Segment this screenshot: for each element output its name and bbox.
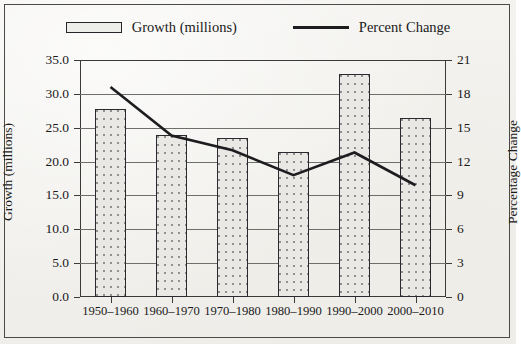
- y-axis-tick-label-right: 0: [457, 290, 464, 304]
- y-axis-tick-right: [446, 195, 452, 196]
- gridline: [80, 94, 446, 95]
- chart-legend: Growth (millions) Percent Change: [0, 14, 516, 40]
- y-axis-tick-right: [446, 297, 452, 298]
- y-axis-tick-left: [74, 94, 80, 95]
- y-axis-tick-label-right: 15: [457, 121, 471, 135]
- x-axis-tick-label: 1970–1980: [204, 305, 261, 318]
- x-axis-tick-label: 1960–1970: [143, 305, 200, 318]
- y-axis-tick-label-left: 20.0: [45, 155, 69, 169]
- gridline: [80, 229, 446, 230]
- y-axis-tick-label-right: 9: [457, 188, 464, 202]
- x-axis-tick: [172, 297, 173, 303]
- legend-item-growth[interactable]: Growth (millions): [66, 20, 237, 35]
- y-axis-tick-label-right: 3: [457, 256, 464, 270]
- x-axis-tick-label: 1950–1960: [82, 305, 139, 318]
- x-axis-tick: [416, 297, 417, 303]
- bar: [339, 74, 370, 297]
- y-axis-tick-label-left: 0.0: [52, 290, 69, 304]
- y-axis-title-left: Growth (millions): [0, 123, 16, 221]
- x-axis-tick: [355, 297, 356, 303]
- y-axis-tick-left: [74, 162, 80, 163]
- y-axis-tick-label-right: 21: [457, 53, 471, 67]
- y-axis-tick-label-left: 30.0: [45, 87, 69, 101]
- y-axis-tick-right: [446, 128, 452, 129]
- line-swatch-icon: [293, 26, 349, 29]
- x-axis-tick-label: 1980–1990: [265, 305, 322, 318]
- y-axis-tick-label-right: 6: [457, 222, 464, 236]
- bar: [217, 138, 248, 297]
- bar: [400, 118, 431, 297]
- y-axis-tick-left: [74, 229, 80, 230]
- x-axis-labels: 1950–19601960–19701970–19801980–19901990…: [80, 305, 446, 325]
- legend-item-label: Growth (millions): [132, 20, 237, 35]
- y-axis-tick-left: [74, 128, 80, 129]
- y-axis-tick-label-right: 18: [457, 87, 471, 101]
- x-axis-tick-label: 2000–2010: [387, 305, 444, 318]
- y-axis-tick-left: [74, 263, 80, 264]
- y-axis-tick-label-left: 15.0: [45, 188, 69, 202]
- y-axis-tick-label-left: 35.0: [45, 53, 69, 67]
- y-axis-tick-label-right: 12: [457, 155, 471, 169]
- plot-area: 0.05.010.015.020.025.030.035.0 036912151…: [80, 60, 446, 297]
- gridline: [80, 263, 446, 264]
- x-axis-tick: [111, 297, 112, 303]
- y-axis-tick-left: [74, 195, 80, 196]
- y-axis-tick-right: [446, 229, 452, 230]
- x-axis-tick-label: 1990–2000: [326, 305, 383, 318]
- y-axis-tick-left: [74, 60, 80, 61]
- y-axis-tick-label-left: 5.0: [52, 256, 69, 270]
- y-axis-tick-right: [446, 263, 452, 264]
- y-axis-tick-left: [74, 297, 80, 298]
- gridline: [80, 195, 446, 196]
- y-axis-tick-right: [446, 60, 452, 61]
- bar: [95, 109, 126, 297]
- x-axis-tick: [294, 297, 295, 303]
- plot-frame: [80, 60, 446, 297]
- bar: [156, 135, 187, 298]
- y-axis-tick-right: [446, 162, 452, 163]
- legend-item-label: Percent Change: [359, 20, 450, 35]
- gridline: [80, 162, 446, 163]
- legend-item-percent-change[interactable]: Percent Change: [293, 20, 450, 35]
- y-axis-tick-label-left: 10.0: [45, 222, 69, 236]
- y-axis-title-right: Percentage Change: [505, 120, 521, 224]
- bar: [278, 152, 309, 297]
- y-axis-tick-right: [446, 94, 452, 95]
- gridline: [80, 128, 446, 129]
- y-axis-tick-label-left: 25.0: [45, 121, 69, 135]
- bar-swatch-icon: [66, 22, 122, 33]
- x-axis-tick: [233, 297, 234, 303]
